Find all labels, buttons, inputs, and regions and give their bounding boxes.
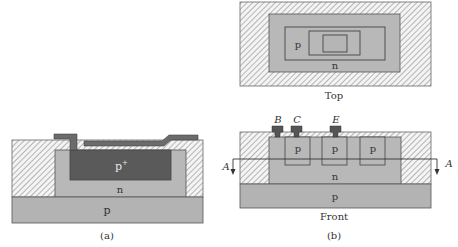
well-label-2: p: [332, 143, 338, 154]
top-label-p: p: [295, 39, 301, 50]
top-emitter-region: [323, 35, 347, 52]
well-label-3: p: [370, 143, 376, 154]
well-label-1: p: [295, 143, 301, 154]
top-label-n: n: [332, 60, 339, 71]
arrow-down-icon: [435, 169, 440, 175]
transistor-structure-figure: p+ n p (a) p n Top B C E p p p n p: [0, 0, 458, 247]
caption-b: (b): [327, 230, 341, 241]
front-label-n: n: [332, 171, 339, 182]
caption-top: Top: [325, 90, 343, 101]
figure-a-cross-section: p+ n p (a): [12, 134, 203, 241]
figure-b-front-view: B C E p p p n p A A Front (b): [221, 114, 452, 241]
terminal-label-e: E: [331, 114, 340, 125]
caption-front: Front: [320, 211, 348, 222]
label-n: n: [117, 184, 124, 195]
figure-b-top-view: p n Top: [240, 2, 431, 101]
caption-a: (a): [100, 230, 114, 241]
terminal-label-b: B: [273, 114, 281, 125]
label-p: p: [103, 204, 110, 217]
front-label-p: p: [332, 191, 338, 202]
arrow-down-icon: [231, 169, 236, 175]
section-marker-right: A: [444, 158, 452, 169]
terminal-label-c: C: [293, 114, 301, 125]
section-marker-left: A: [221, 161, 229, 172]
